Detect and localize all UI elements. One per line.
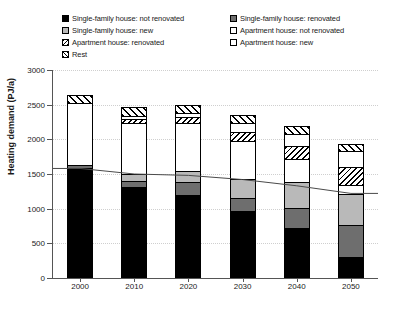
legend-item: Single-family house: not renovated (62, 13, 184, 24)
bar-segment (67, 165, 93, 168)
y-tick (47, 209, 52, 210)
y-tick (47, 243, 52, 244)
bar-2020 (175, 105, 201, 278)
bar-segment (230, 115, 256, 123)
bar-2040 (284, 126, 310, 278)
y-tick (47, 105, 52, 106)
bar-segment (121, 181, 147, 187)
white-swatch-icon (230, 39, 237, 46)
gridline (53, 209, 378, 210)
gridline (53, 70, 378, 71)
legend-item: Rest (62, 49, 184, 60)
bar-segment (284, 208, 310, 228)
x-tick (297, 278, 298, 282)
bar-segment (121, 123, 147, 174)
y-tick (47, 139, 52, 140)
y-tick-label: 1000 (27, 204, 45, 213)
x-tick (80, 278, 81, 282)
black-swatch-icon (62, 15, 69, 22)
bar-segment (284, 159, 310, 183)
x-tick (243, 278, 244, 282)
bar-segment (230, 132, 256, 140)
bar-segment (121, 107, 147, 116)
bar-segment (175, 123, 201, 170)
y-tick (47, 278, 52, 279)
y-tick (47, 174, 52, 175)
legend-item: Apartment house: new (230, 37, 344, 48)
bar-segment (338, 194, 364, 225)
bar-segment (284, 134, 310, 146)
bar-segment (121, 174, 147, 181)
y-axis-title: Heating demand (PJ/a) (6, 78, 16, 175)
bar-segment (230, 211, 256, 278)
legend-column-left: Single-family house: not renovated Singl… (62, 13, 184, 61)
gridline (53, 174, 378, 175)
gridline (53, 139, 378, 140)
x-tick (188, 278, 189, 282)
chart-legend: Single-family house: not renovated Singl… (62, 13, 382, 61)
bar-segment (284, 182, 310, 208)
bar-2050 (338, 144, 364, 278)
legend-item: Apartment house: renovated (62, 37, 184, 48)
bar-segment (67, 168, 93, 278)
x-tick-label: 2040 (288, 282, 306, 291)
bar-segment (230, 141, 256, 179)
bar-segment (230, 123, 256, 132)
gridline (53, 105, 378, 106)
y-tick-label: 500 (32, 239, 45, 248)
bar-segment (175, 117, 201, 123)
bar-segment (121, 187, 147, 278)
legend-item-label: Single-family house: not renovated (72, 14, 184, 23)
x-tick-label: 2010 (125, 282, 143, 291)
x-tick-label: 2050 (342, 282, 360, 291)
white-swatch-icon (230, 27, 237, 34)
y-tick-label: 3000 (27, 66, 45, 75)
bar-segment (67, 103, 93, 165)
legend-item-label: Single-family house: new (72, 26, 153, 35)
x-tick-label: 2030 (234, 282, 252, 291)
y-tick-label: 2000 (27, 135, 45, 144)
x-tick (134, 278, 135, 282)
bar-segment (230, 198, 256, 212)
legend-item-label: Single-family house: renovated (240, 14, 340, 23)
bar-segment (67, 95, 93, 103)
x-tick-label: 2020 (180, 282, 198, 291)
bar-segment (338, 185, 364, 194)
x-tick (351, 278, 352, 282)
heating-demand-chart: Single-family house: not renovated Singl… (0, 0, 393, 310)
plot-area: 050010001500200025003000 200020102020203… (52, 70, 378, 279)
legend-item: Single-family house: new (62, 25, 184, 36)
bar-segment (338, 144, 364, 151)
bar-2030 (230, 115, 256, 278)
bar-2010 (121, 107, 147, 278)
light-gray-swatch-icon (62, 27, 69, 34)
bar-segment (175, 171, 201, 183)
y-tick (47, 70, 52, 71)
gridline (53, 243, 378, 244)
y-tick-label: 2500 (27, 100, 45, 109)
bar-2000 (67, 95, 93, 278)
legend-item-label: Apartment house: renovated (72, 38, 164, 47)
bar-segment (338, 225, 364, 256)
bar-segment (175, 113, 201, 117)
hatch-swatch-icon (62, 39, 69, 46)
x-tick-label: 2000 (71, 282, 89, 291)
bar-segment (230, 179, 256, 198)
y-tick-label: 1500 (27, 170, 45, 179)
legend-item-label: Apartment house: not renovated (240, 26, 344, 35)
legend-item: Apartment house: not renovated (230, 25, 344, 36)
bar-segment (338, 257, 364, 278)
bar-segment (121, 116, 147, 119)
dark-gray-swatch-icon (230, 15, 237, 22)
bar-segment (338, 151, 364, 167)
bar-segment (175, 182, 201, 194)
bar-segment (284, 228, 310, 278)
bar-segment (284, 146, 310, 158)
legend-item: Single-family house: renovated (230, 13, 344, 24)
bar-segment (121, 119, 147, 123)
bar-segment (338, 167, 364, 185)
trend-line-extended (53, 168, 378, 193)
bar-segment (175, 195, 201, 278)
bar-segment (175, 105, 201, 113)
y-tick-label: 0 (41, 274, 45, 283)
